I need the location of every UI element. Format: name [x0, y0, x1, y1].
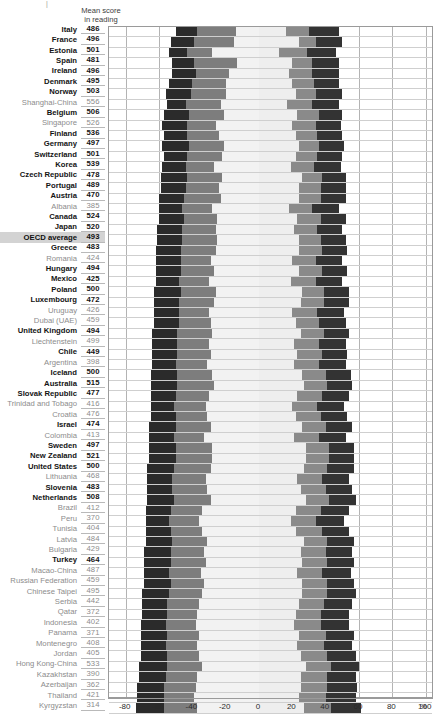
bar-segment-L1 [151, 402, 174, 411]
bar-row [109, 589, 432, 599]
bar-row [109, 464, 432, 474]
bar-segment-L2 [189, 110, 224, 119]
bar-segment-L3 [216, 246, 259, 255]
bar-row [109, 527, 432, 537]
bar-segment-R1 [259, 422, 302, 431]
country-label-row: Peru370 [0, 513, 105, 523]
bar-segment-L2 [166, 641, 198, 650]
bar-segment-R2 [304, 381, 327, 390]
bar-segment-R1 [259, 495, 306, 504]
bar-segment-L3 [224, 110, 259, 119]
mean-score-value: 405 [81, 648, 105, 659]
bar-segment-R3 [321, 194, 346, 203]
country-label-row: Uruguay426 [0, 305, 105, 315]
bar-segment-L3 [226, 79, 259, 88]
bar-segment-L1 [159, 194, 184, 203]
bar-segment-L3 [196, 683, 259, 692]
axis-tick--20: -20 [219, 702, 231, 711]
bar-segment-R1 [259, 599, 299, 608]
bar-segment-L3 [209, 277, 259, 286]
country-name: Japan [0, 222, 81, 231]
bar-row [109, 350, 432, 360]
country-label-row: France496 [0, 34, 105, 44]
bar-segment-R2 [296, 506, 321, 515]
bar-segment-L1 [152, 350, 177, 359]
country-label-row: Greece483 [0, 243, 105, 253]
country-name: Montenegro [0, 639, 81, 648]
bar-segment-R3 [324, 599, 352, 608]
bar-row [109, 443, 432, 453]
bar-segment-L2 [187, 48, 212, 57]
bar-segment-R2 [296, 152, 318, 161]
country-name: Israel [0, 420, 81, 429]
mean-score-value: 464 [81, 555, 105, 566]
bar-segment-R2 [304, 464, 327, 473]
bar-segment-R2 [302, 579, 327, 588]
country-name: Panama [0, 628, 81, 637]
bar-segment-R3 [327, 651, 355, 660]
bar-segment-R3 [326, 547, 353, 556]
bar-segment-R3 [312, 69, 339, 78]
bar-row [109, 89, 432, 99]
bar-segment-R2 [306, 495, 329, 504]
bar-segment-R1 [259, 152, 296, 161]
bar-segment-R1 [259, 298, 301, 307]
bar-segment-R1 [259, 308, 292, 317]
bar-segment-R3 [322, 527, 349, 536]
bar-row [109, 381, 432, 391]
bar-row [109, 37, 432, 47]
mean-score-value: 521 [81, 451, 105, 462]
bar-segment-L3 [209, 391, 259, 400]
bar-segment-L1 [149, 454, 176, 463]
bar-segment-R2 [302, 287, 324, 296]
bar-segment-R2 [291, 516, 316, 525]
bar-segment-L1 [162, 121, 187, 130]
bar-segment-R2 [299, 141, 319, 150]
country-name: Iceland [0, 368, 81, 377]
bar-segment-L1 [151, 391, 176, 400]
bar-segment-L1 [146, 537, 173, 546]
bar-segment-R3 [327, 683, 357, 692]
bar-row [109, 110, 432, 120]
bar-segment-R3 [321, 235, 346, 244]
mean-score-value: 372 [81, 607, 105, 618]
bar-segment-L1 [161, 183, 186, 192]
bar-segment-L2 [176, 422, 211, 431]
country-name: Peru [0, 514, 81, 523]
bar-row [109, 287, 432, 297]
country-label-row: Bulgaria429 [0, 544, 105, 554]
bar-segment-R3 [314, 79, 339, 88]
bar-segment-R2 [299, 194, 321, 203]
bar-segment-L1 [146, 516, 169, 525]
mean-score-value: 314 [81, 700, 105, 711]
bar-segment-R2 [301, 298, 324, 307]
bar-row [109, 631, 432, 641]
bar-segment-R1 [259, 287, 302, 296]
country-label-row: Kyrgyzstan314 [0, 700, 105, 710]
mean-score-value: 404 [81, 523, 105, 534]
bar-segment-R3 [316, 121, 341, 130]
bar-segment-L3 [212, 204, 259, 213]
country-name: Ireland [0, 66, 81, 75]
bar-segment-L3 [199, 631, 259, 640]
bar-segment-L3 [217, 235, 259, 244]
bar-segment-L3 [196, 620, 259, 629]
mean-score-value: 499 [81, 336, 105, 347]
bar-segment-L3 [229, 69, 259, 78]
bar-segment-R2 [297, 568, 322, 577]
bar-segment-L2 [172, 474, 205, 483]
bar-segment-L1 [152, 360, 175, 369]
bar-segment-R1 [259, 568, 297, 577]
bar-segment-L3 [211, 256, 259, 265]
country-label-row: Turkey464 [0, 555, 105, 565]
country-name: Finland [0, 129, 81, 138]
country-label-row: Mexico425 [0, 274, 105, 284]
bar-segment-L3 [214, 381, 259, 390]
bar-segment-R1 [259, 27, 286, 36]
bar-segment-L3 [212, 370, 259, 379]
country-label-row: Slovak Republic477 [0, 388, 105, 398]
mean-score-value: 478 [81, 170, 105, 181]
bar-row [109, 256, 432, 266]
bar-segment-L2 [191, 89, 226, 98]
bar-segment-R1 [259, 235, 299, 244]
